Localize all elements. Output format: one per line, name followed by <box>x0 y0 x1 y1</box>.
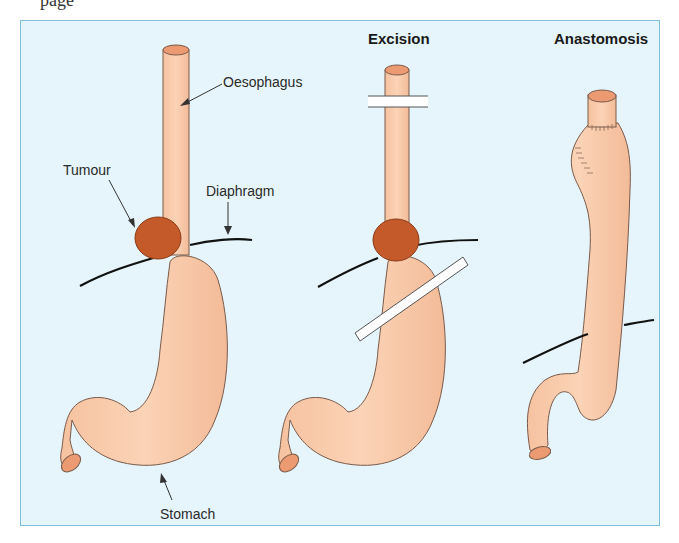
arrowhead-icon <box>224 226 232 235</box>
oesophagus-opening <box>385 65 409 75</box>
label-diaphragm: Diaphragm <box>206 183 274 199</box>
oesophagus-opening <box>163 45 189 55</box>
panel-title-anastomosis: Anastomosis <box>554 30 648 47</box>
tumour-mass <box>135 217 181 259</box>
label-tumour: Tumour <box>63 162 111 178</box>
stomach-shape <box>61 256 228 467</box>
label-oesophagus: Oesophagus <box>223 74 302 90</box>
tumour-arrow-icon <box>109 180 133 225</box>
panel-anastomosis: Anastomosis <box>523 30 654 462</box>
panel-before: Oesophagus Tumour Diaphragm Stomach <box>58 45 302 522</box>
tumour-mass <box>373 219 419 261</box>
oesophagectomy-diagram: Oesophagus Tumour Diaphragm Stomach Exci… <box>0 0 679 543</box>
arrowhead-icon <box>128 218 135 228</box>
panel-title-excision: Excision <box>368 30 430 47</box>
upper-clamp <box>368 96 428 107</box>
arrowhead-icon <box>160 473 167 483</box>
label-stomach: Stomach <box>160 506 215 522</box>
stomach-tube-shape <box>527 123 630 455</box>
oesophagus-opening <box>588 90 616 102</box>
panel-excision: Excision <box>276 30 478 475</box>
